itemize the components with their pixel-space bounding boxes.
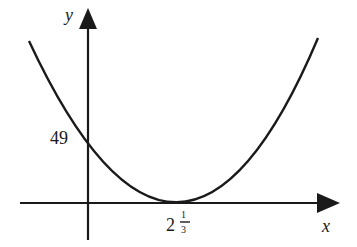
- vertex-label-numerator: 1: [181, 209, 186, 220]
- parabola-graph: y x 49 2 1 3: [0, 0, 357, 247]
- y-axis-arrow-icon: [79, 8, 97, 29]
- vertex-label-denominator: 3: [181, 224, 186, 235]
- y-axis-label: y: [63, 5, 73, 25]
- y-intercept-label: 49: [50, 128, 68, 148]
- vertex-label: 2 1 3: [166, 209, 190, 235]
- x-axis-label: x: [321, 216, 330, 236]
- parabola-curve: [29, 38, 318, 202]
- vertex-label-whole: 2: [166, 215, 175, 235]
- x-axis-arrow-icon: [317, 193, 340, 213]
